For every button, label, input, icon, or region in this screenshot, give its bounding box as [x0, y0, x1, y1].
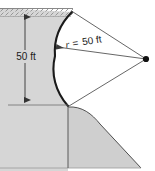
radius-line-lower [69, 59, 146, 106]
radius-label-value: 50 ft [81, 33, 102, 47]
dam-radius-diagram: 50 ft r = 50 ft [0, 0, 155, 171]
radius-line-middle [57, 47, 146, 59]
embankment-slope [68, 107, 141, 168]
water-surface-hatch [0, 8, 73, 17]
figure-container: 50 ft r = 50 ft [0, 0, 155, 171]
soil-mass-left [0, 8, 72, 171]
radius-label-r: r [65, 38, 71, 49]
radius-label-group: r = 50 ft [65, 33, 103, 50]
depth-label: 50 ft [16, 51, 36, 62]
radius-label-equals: = [72, 37, 80, 49]
radius-center-dot [143, 56, 149, 62]
